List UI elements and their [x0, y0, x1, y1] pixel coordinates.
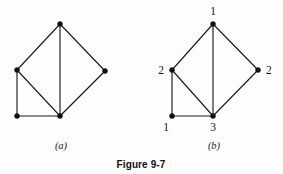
vertex-label-b-bmid: 3: [210, 121, 216, 133]
figure-title: Figure 9-7: [117, 159, 166, 170]
graph-edge-b-top-b-left: [172, 24, 213, 70]
graph-vertex-a-top: [58, 22, 63, 27]
captions-layer: (a)(b): [55, 140, 221, 152]
graph-vertex-b-right: [256, 68, 261, 73]
graph-edge-a-top-a-right: [60, 24, 105, 71]
figure-canvas: 12213 (a)(b) Figure 9-7: [0, 0, 283, 174]
graph-edge-b-right-b-bmid: [213, 70, 258, 116]
graph-edge-a-left-a-bmid: [17, 70, 60, 116]
graph-edge-a-top-a-left: [17, 24, 60, 70]
vertex-label-b-bleft: 1: [163, 121, 169, 133]
graph-vertex-b-left: [170, 68, 175, 73]
panel-caption-b: (b): [208, 140, 221, 152]
graph-vertex-a-bleft: [15, 114, 20, 119]
graph-panel-a: [15, 22, 108, 119]
graph-vertex-b-bmid: [211, 114, 216, 119]
vertex-label-b-left: 2: [158, 64, 164, 76]
graph-vertex-a-left: [15, 68, 20, 73]
graph-edge-b-left-b-bmid: [172, 70, 213, 116]
graph-edge-a-right-a-bmid: [60, 71, 105, 116]
graph-edge-b-top-b-right: [213, 24, 258, 70]
graph-vertex-a-bmid: [58, 114, 63, 119]
vertex-label-b-top: 1: [210, 5, 216, 17]
vertex-label-b-right: 2: [266, 64, 272, 76]
graph-vertex-a-right: [103, 69, 108, 74]
graph-panel-b: 12213: [158, 5, 272, 133]
panel-caption-a: (a): [55, 140, 68, 152]
figure-container: 12213 (a)(b) Figure 9-7: [0, 0, 283, 174]
graph-vertex-b-bleft: [170, 114, 175, 119]
graph-panels-layer: 12213: [15, 5, 273, 133]
graph-vertex-b-top: [211, 22, 216, 27]
